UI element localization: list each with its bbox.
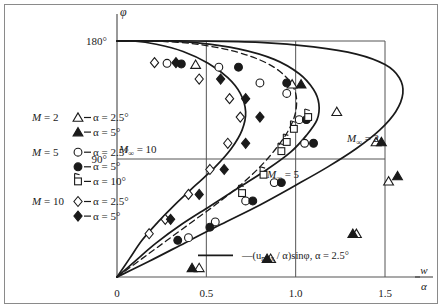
data-point-3-6 [249, 197, 257, 205]
x-tick-3: 1.5 [378, 287, 392, 299]
legend-group-label-1: M = 5 [31, 146, 59, 158]
y-axis-label: φ [120, 5, 127, 19]
data-point-6-7 [167, 214, 175, 224]
legend-entry-1-0: α = 2.5° [93, 146, 129, 158]
data-point-5-8 [145, 229, 153, 239]
data-point-3-4 [310, 139, 318, 147]
data-point-2-5 [301, 139, 309, 147]
data-point-5-3 [236, 112, 244, 122]
legend-group-label-0: M = 2 [31, 111, 58, 123]
legend-entry-2-0: α = 2.5° [93, 195, 129, 207]
data-point-3-1 [235, 63, 243, 71]
data-point-4-0 [305, 109, 312, 120]
data-point-2-1 [215, 63, 223, 71]
data-point-5-5 [206, 164, 214, 174]
data-point-2-0 [163, 59, 171, 67]
legend-marker-2-0 [74, 197, 82, 207]
data-point-3-8 [174, 236, 182, 244]
data-point-6-2 [242, 94, 250, 104]
data-point-2-3 [283, 90, 291, 98]
legend-marker-0-0 [73, 113, 83, 121]
figure-border [5, 5, 438, 304]
legend-entry-0-0: α = 2.5° [93, 111, 129, 123]
data-point-3-7 [206, 223, 214, 231]
data-point-6-1 [217, 74, 225, 84]
legend-entry-1-1: α = 5° [93, 160, 120, 172]
data-point-4-4 [260, 167, 267, 178]
legend-formula-text: —(umax / α)sinφ, α = 2.5° [241, 250, 349, 263]
data-point-5-1 [195, 74, 203, 84]
data-point-2-9 [185, 234, 193, 242]
data-point-6-5 [220, 164, 228, 174]
data-point-1-2 [393, 171, 403, 179]
data-point-5-6 [184, 189, 192, 199]
y-tick-180: 180° [86, 35, 107, 47]
data-point-5-4 [224, 138, 232, 148]
legend-marker-1-0 [74, 148, 82, 156]
legend-marker-1-2 [75, 173, 82, 184]
data-point-5-2 [225, 94, 233, 104]
figure-root: 180°90°φ00.51.01.5wαM∞ = 10M∞ = 5M∞ = 2M… [0, 0, 442, 308]
data-point-3-2 [283, 79, 291, 87]
legend-marker-0-1 [73, 128, 83, 136]
chart-canvas: 180°90°φ00.51.01.5wαM∞ = 10M∞ = 5M∞ = 2M… [0, 0, 442, 308]
data-point-1-0 [296, 80, 306, 88]
x-tick-2: 1.0 [289, 287, 303, 299]
legend-marker-2-1 [74, 211, 82, 221]
data-point-4-2 [283, 134, 290, 145]
data-point-2-2 [256, 79, 264, 87]
legend-group-label-2: M = 10 [31, 195, 64, 207]
legend-entry-1-2: α = 10° [93, 175, 126, 187]
x-axis-label-num: w [420, 264, 428, 276]
legend-marker-1-1 [74, 163, 82, 171]
x-tick-0: 0 [114, 287, 120, 299]
data-point-0-2 [332, 107, 342, 115]
x-axis-label-den: α [421, 280, 427, 292]
x-tick-1: 0.5 [199, 287, 213, 299]
data-point-6-4 [242, 138, 250, 148]
data-point-0-0 [191, 60, 201, 68]
legend-entry-2-1: α = 5° [93, 210, 120, 222]
legend-entry-0-1: α = 5° [93, 126, 120, 138]
data-point-6-3 [256, 112, 264, 122]
data-point-5-0 [150, 58, 158, 68]
data-point-1-5 [187, 263, 197, 271]
data-point-6-6 [195, 189, 203, 199]
